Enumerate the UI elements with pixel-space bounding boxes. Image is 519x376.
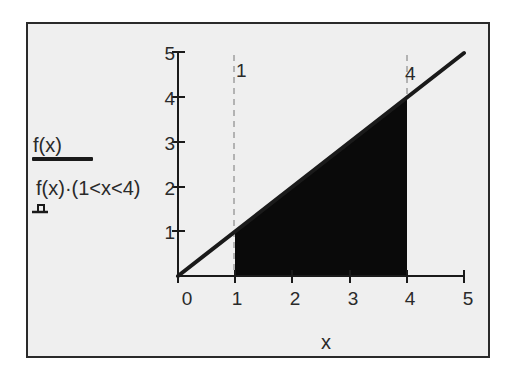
y-tick-label: 5	[164, 43, 175, 64]
x-tick-label: 0	[182, 288, 193, 309]
x-tick-label: 2	[290, 288, 301, 309]
shaded-area	[235, 97, 407, 276]
y-axis	[172, 52, 185, 277]
y-tick-label: 1	[164, 222, 175, 243]
x-tick-label: 3	[348, 288, 359, 309]
x-axis-label: x	[321, 331, 331, 353]
x-tick-label: 5	[463, 288, 474, 309]
plot-area: 5 4 3 2 1 0 1 2 3 4 5 1 4 x	[0, 0, 519, 376]
x-tick-label: 4	[405, 288, 416, 309]
y-tick-label: 2	[164, 178, 175, 199]
x-tick-label: 1	[232, 288, 243, 309]
marker-label-x4: 4	[405, 63, 416, 84]
pulse-bar-icon	[32, 205, 48, 212]
marker-label-x1: 1	[236, 60, 247, 81]
y-tick-label: 3	[164, 133, 175, 154]
y-tick-label: 4	[164, 88, 175, 109]
